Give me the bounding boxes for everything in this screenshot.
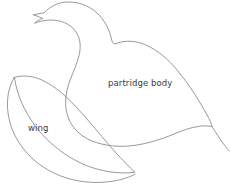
pattern-drawing [0,0,230,194]
wing-label: wing [28,124,49,133]
bird-wing-inner-edge-icon [7,77,135,182]
pattern-canvas: partridge body wing [0,0,230,194]
bird-tail-outline-icon [212,127,229,151]
partridge-body-label: partridge body [108,79,172,88]
bird-body-outline-icon [34,2,213,146]
